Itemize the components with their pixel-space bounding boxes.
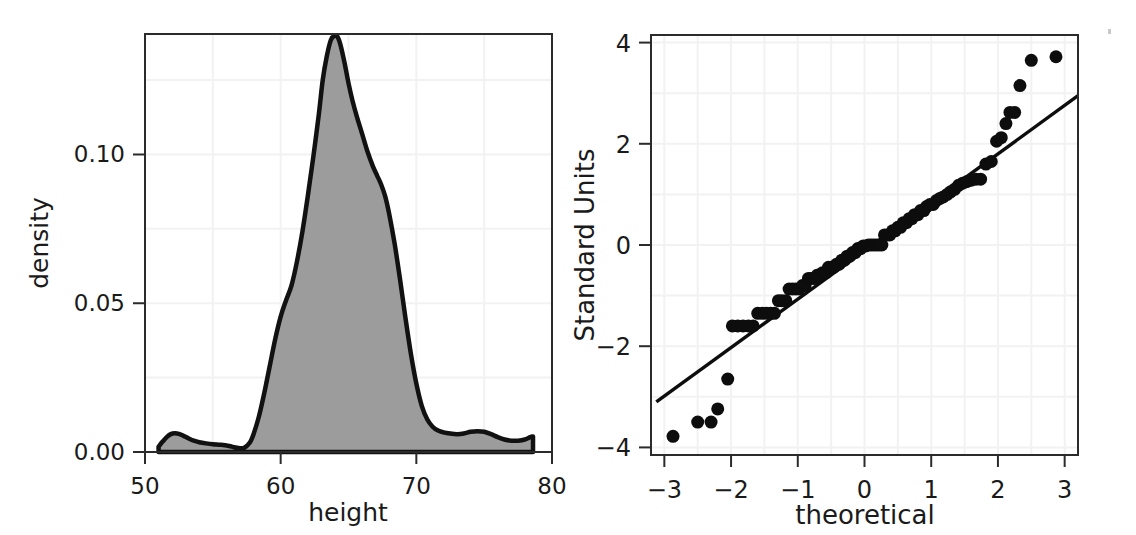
qq-data-point	[711, 402, 724, 415]
qq-data-point	[721, 373, 734, 386]
qq-data-point	[974, 173, 987, 186]
density-ytick-label: 0.10	[74, 141, 125, 167]
qq-xtick-label: 3	[1057, 476, 1072, 504]
density-xaxis-title: height	[308, 498, 388, 527]
density-xtick-label: 80	[537, 473, 566, 499]
qq-data-point	[747, 319, 760, 332]
figure-container: 506070800.000.050.10 height density −3−2…	[0, 0, 1136, 535]
density-plot-svg: 506070800.000.050.10 height density	[0, 0, 568, 535]
qq-data-point	[1013, 79, 1026, 92]
qq-xtick-label: −2	[713, 476, 748, 504]
qq-data-point	[985, 155, 998, 168]
qq-data-point	[705, 416, 718, 429]
qq-yaxis-title: Standard Units	[570, 148, 600, 341]
qq-data-point	[779, 294, 792, 307]
density-xtick-label: 70	[402, 473, 431, 499]
qq-xaxis-title: theoretical	[795, 500, 935, 530]
density-fill-path	[159, 35, 533, 452]
density-yaxis-title: density	[25, 197, 54, 289]
qq-data-point	[1049, 50, 1062, 63]
qq-data-point	[999, 117, 1012, 130]
qq-data-point	[691, 416, 704, 429]
qq-ytick-label: 0	[616, 232, 631, 260]
qq-ytick-label: 4	[616, 30, 631, 58]
density-xtick-label: 50	[130, 473, 159, 499]
page-speck	[1108, 29, 1111, 34]
density-plot-panel: 506070800.000.050.10 height density	[0, 0, 568, 535]
qq-data-point	[1025, 54, 1038, 67]
qq-plot-svg: −3−2−10123−4−2024 theoretical Standard U…	[568, 0, 1136, 535]
qq-xtick-label: −3	[647, 476, 682, 504]
qq-ytick-label: −2	[596, 333, 631, 361]
qq-ytick-label: 2	[616, 131, 631, 159]
density-area	[159, 35, 533, 452]
qq-ytick-label: −4	[596, 434, 631, 462]
qq-data-point	[995, 131, 1008, 144]
qq-data-point	[768, 307, 781, 320]
qq-data-point	[667, 430, 680, 443]
density-ytick-label: 0.05	[74, 290, 125, 316]
qq-plot-panel: −3−2−10123−4−2024 theoretical Standard U…	[568, 0, 1136, 535]
qq-xtick-label: 2	[990, 476, 1005, 504]
qq-data-point	[1008, 106, 1021, 119]
density-ytick-label: 0.00	[74, 439, 125, 465]
density-xtick-label: 60	[266, 473, 295, 499]
